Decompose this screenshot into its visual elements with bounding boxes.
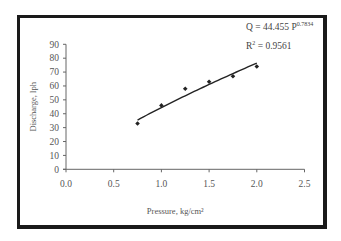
data-point-marker xyxy=(255,64,260,69)
axes: 01020304050607080900.00.51.01.52.02.5 xyxy=(50,40,311,190)
trendline-equation: Q = 44.455 P0.7834 xyxy=(246,22,313,32)
x-tick-label: 1.5 xyxy=(203,179,215,189)
x-tick-label: 0.0 xyxy=(60,179,72,189)
y-tick-label: 0 xyxy=(54,165,59,175)
y-tick-label: 30 xyxy=(50,123,60,133)
scatter-chart: 01020304050607080900.00.51.01.52.02.5 Pr… xyxy=(0,0,341,241)
y-axis-title: Discharge, lph xyxy=(28,81,38,131)
y-tick-label: 10 xyxy=(50,151,60,161)
y-tick-label: 70 xyxy=(50,67,60,77)
y-tick-label: 80 xyxy=(50,53,60,63)
trendline-curve xyxy=(138,63,257,120)
r2-value: = 0.9561 xyxy=(255,41,291,51)
y-tick-label: 20 xyxy=(50,137,60,147)
r-squared: R2 = 0.9561 xyxy=(246,41,292,51)
x-tick-label: 1.0 xyxy=(155,179,167,189)
x-axis-title: Pressure, kg/cm² xyxy=(147,206,204,216)
equation-exponent: 0.7834 xyxy=(297,21,314,27)
x-tick-label: 2.0 xyxy=(251,179,263,189)
x-tick-label: 0.5 xyxy=(108,179,120,189)
data-point-marker xyxy=(135,121,140,126)
data-points xyxy=(135,64,259,126)
r2-superscript: 2 xyxy=(252,40,255,46)
y-tick-label: 50 xyxy=(50,95,60,105)
y-tick-label: 60 xyxy=(50,81,60,91)
x-tick-label: 2.5 xyxy=(299,179,311,189)
y-tick-label: 40 xyxy=(50,109,60,119)
trendline xyxy=(138,63,257,120)
data-point-marker xyxy=(183,86,188,91)
y-tick-label: 90 xyxy=(50,40,60,50)
equation-text: Q = 44.455 P xyxy=(246,22,297,32)
